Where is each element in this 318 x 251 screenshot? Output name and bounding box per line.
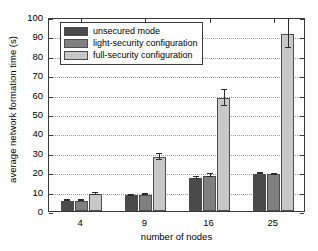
legend-swatch: [64, 39, 88, 48]
x-axis-tick-label: 9: [124, 218, 164, 228]
y-axis-tick-label: 10: [17, 188, 43, 198]
bar: [125, 195, 138, 211]
bar: [139, 195, 152, 211]
y-axis-tick-label: 80: [17, 52, 43, 62]
error-bar-cap: [221, 89, 227, 90]
x-axis-tick-label: 16: [189, 218, 229, 228]
legend-label: full-security configuration: [93, 51, 193, 60]
error-bar-cap: [207, 176, 213, 177]
error-bar-cap: [78, 200, 84, 201]
legend-item: light-security configuration: [64, 38, 198, 49]
error-bar-cap: [92, 192, 98, 193]
error-bar-cap: [128, 194, 134, 195]
error-bar-cap: [193, 178, 199, 179]
legend-swatch: [64, 51, 88, 60]
x-axis-label: number of nodes: [48, 231, 305, 242]
bar: [75, 201, 88, 211]
error-bar-cap: [78, 199, 84, 200]
bar: [61, 201, 74, 211]
error-bar-cap: [285, 47, 291, 48]
bar: [189, 178, 202, 211]
error-bar-cap: [285, 18, 291, 19]
legend-item: unsecured mode: [64, 26, 198, 37]
error-bar-cap: [257, 173, 263, 174]
legend-label: unsecured mode: [93, 27, 160, 36]
y-axis-tick-label: 40: [17, 129, 43, 139]
y-axis-tick-label: 0: [17, 207, 43, 217]
legend-swatch: [64, 27, 88, 36]
error-bar-cap: [64, 200, 70, 201]
bar: [217, 98, 230, 211]
y-axis-tick: [300, 213, 304, 214]
legend-label: light-security configuration: [93, 39, 198, 48]
bar: [267, 174, 280, 211]
bar: [253, 174, 266, 211]
error-bar-cap: [221, 105, 227, 106]
error-bar-cap: [193, 176, 199, 177]
y-axis-tick-label: 70: [17, 71, 43, 81]
bar: [153, 157, 166, 211]
y-axis-tick-label: 20: [17, 168, 43, 178]
error-bar-cap: [142, 194, 148, 195]
error-bar-cap: [257, 172, 263, 173]
error-bar-cap: [271, 173, 277, 174]
error-bar-cap: [207, 173, 213, 174]
y-axis-tick-label: 90: [17, 32, 43, 42]
y-axis-tick-label: 30: [17, 149, 43, 159]
error-bar-cap: [92, 194, 98, 195]
x-axis-tick-label: 25: [253, 218, 293, 228]
error-bar-cap: [271, 174, 277, 175]
error-bar-cap: [128, 195, 134, 196]
chart-figure: average network formation time (s) 01020…: [0, 0, 318, 251]
error-bar-cap: [156, 159, 162, 160]
y-axis-tick-label: 100: [17, 13, 43, 23]
y-axis-tick: [49, 213, 53, 214]
bar: [203, 176, 216, 212]
y-axis-tick-label: 50: [17, 110, 43, 120]
error-bar-cap: [64, 199, 70, 200]
bar: [89, 194, 102, 211]
error-bar: [224, 90, 225, 106]
error-bar: [288, 19, 289, 48]
bar: [281, 34, 294, 211]
legend-item: full-security configuration: [64, 50, 198, 61]
legend: unsecured modelight-security configurati…: [60, 22, 203, 65]
error-bar-cap: [142, 193, 148, 194]
y-axis-tick-label: 60: [17, 91, 43, 101]
x-axis-tick-label: 4: [60, 218, 100, 228]
error-bar-cap: [156, 153, 162, 154]
